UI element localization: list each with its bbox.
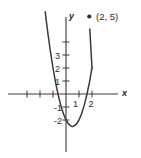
parabola-curve-upper-right — [90, 29, 92, 68]
y-tick-label-1: 1 — [55, 77, 60, 87]
parabola-curve — [45, 12, 92, 127]
point-annotation-label: (2, 5) — [96, 11, 118, 22]
y-tick-label--1: -1 — [54, 103, 62, 113]
y-tick-label-3: 3 — [55, 51, 60, 61]
x-axis-label: x — [121, 88, 128, 98]
y-tick-label-2: 2 — [55, 64, 60, 74]
graph-figure: x y 1 2 3 2 1 -1 -2 (2, 5) — [0, 0, 141, 158]
x-tick-label-1: 1 — [73, 99, 78, 109]
x-tick-label-2: 2 — [88, 99, 93, 109]
y-tick-label--2: -2 — [54, 116, 62, 126]
y-axis-label: y — [68, 11, 75, 21]
plotted-point-2-5 — [87, 14, 91, 18]
coordinate-plane-svg: x y 1 2 3 2 1 -1 -2 (2, 5) — [0, 0, 141, 158]
